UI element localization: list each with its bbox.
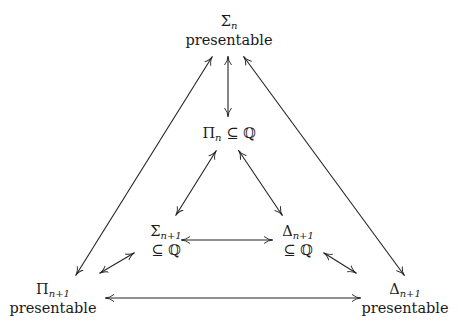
node-bottom-left-label: Πn+1 [9,280,96,299]
node-bottom-right-line2: presentable [361,299,448,318]
arrow-middle-inner-left [176,151,216,215]
arrow-inner-left-bottom-left [100,253,134,273]
arrow-top-bottom-right [244,57,404,275]
node-bottom-left-line2: presentable [9,299,96,318]
node-inner-right-label: Δn+1 [282,222,314,241]
node-pi-n1-presentable: Πn+1 presentable [9,280,96,318]
node-inner-left-label: Σn+1 [150,222,181,241]
arrow-top-bottom-left [76,57,212,275]
node-top-line2: presentable [185,31,272,50]
node-middle-label: Πn ⊆ ℚ [202,124,255,143]
node-delta-n1-presentable: Δn+1 presentable [361,280,448,318]
arrow-inner-right-bottom-right [324,253,356,273]
node-top-label: Σn [185,12,272,31]
node-inner-left-line2: ⊆ ℚ [150,241,181,260]
node-delta-n1-subset-q: Δn+1 ⊆ ℚ [282,222,314,260]
node-inner-right-line2: ⊆ ℚ [282,241,314,260]
node-sigma-n-presentable: Σn presentable [185,12,272,50]
implication-diagram: Σn presentable Πn ⊆ ℚ Σn+1 ⊆ ℚ Δn+1 ⊆ ℚ … [0,0,458,336]
node-pi-n-subset-q: Πn ⊆ ℚ [202,124,255,143]
node-bottom-right-label: Δn+1 [361,280,448,299]
node-sigma-n1-subset-q: Σn+1 ⊆ ℚ [150,222,181,260]
arrow-middle-inner-right [239,151,282,215]
